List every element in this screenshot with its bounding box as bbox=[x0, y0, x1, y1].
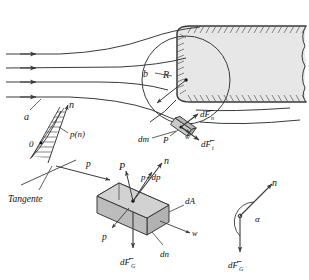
label-dFt: dF t bbox=[201, 139, 215, 151]
svg-text:dF: dF bbox=[228, 260, 239, 270]
label-p-of-n: p(n) bbox=[69, 129, 85, 139]
leader-dA bbox=[169, 205, 184, 212]
streamline-arrowheads bbox=[20, 54, 36, 97]
label-a: a bbox=[24, 111, 29, 122]
label-dn: dn bbox=[160, 249, 170, 259]
label-P-contact: P bbox=[162, 135, 169, 145]
surface-element-dm: dm P w dF n dF t bbox=[138, 109, 215, 151]
fluid-flow-diagram: R a b bbox=[0, 0, 309, 280]
label-b: b bbox=[143, 68, 148, 79]
svg-text:G: G bbox=[131, 263, 136, 269]
arrow-n-angle bbox=[240, 184, 272, 216]
label-n-box: n bbox=[164, 155, 169, 166]
vector-p-left: p bbox=[56, 159, 110, 180]
svg-text:G: G bbox=[239, 266, 244, 272]
label-tangente: Tangente bbox=[8, 194, 42, 204]
svg-text:dF: dF bbox=[200, 109, 211, 119]
label-dFG-angle: dF G bbox=[228, 260, 244, 272]
label-w-box: w bbox=[192, 229, 198, 238]
label-p-lower: p bbox=[101, 232, 107, 242]
alpha-arc bbox=[234, 202, 254, 236]
label-dA: dA bbox=[185, 196, 196, 206]
angle-alpha-detail: n dF G α bbox=[228, 177, 277, 272]
label-p-plus-dp: p+dp bbox=[140, 172, 161, 182]
axis-n-profile bbox=[48, 105, 68, 163]
leader-tangente bbox=[39, 166, 52, 190]
leader-P-contact bbox=[170, 130, 178, 136]
pressure-profile: n p(n) 0 Tangente bbox=[8, 99, 85, 204]
svg-text:t: t bbox=[212, 145, 214, 151]
arrow-w-box bbox=[160, 221, 190, 233]
label-n-angle: n bbox=[272, 177, 277, 188]
svg-text:dF: dF bbox=[201, 139, 212, 149]
point-zero bbox=[40, 142, 43, 145]
label-zero: 0 bbox=[29, 139, 34, 149]
label-dFG-box: dF G bbox=[120, 257, 136, 269]
svg-text:dF: dF bbox=[120, 257, 131, 267]
svg-text:n: n bbox=[211, 115, 214, 121]
label-P-upper: P bbox=[118, 161, 125, 172]
label-dm: dm bbox=[138, 134, 150, 144]
label-alpha: α bbox=[255, 214, 260, 224]
label-w-contact: w bbox=[185, 133, 190, 141]
leader-a bbox=[30, 99, 41, 110]
label-n-top: n bbox=[69, 99, 74, 110]
fluid-element-box: n p+dp P p dA w dn dF G bbox=[97, 155, 198, 269]
leader-dn bbox=[152, 232, 163, 245]
label-p-left: p bbox=[85, 159, 91, 169]
leader-p-of-n bbox=[59, 127, 68, 133]
